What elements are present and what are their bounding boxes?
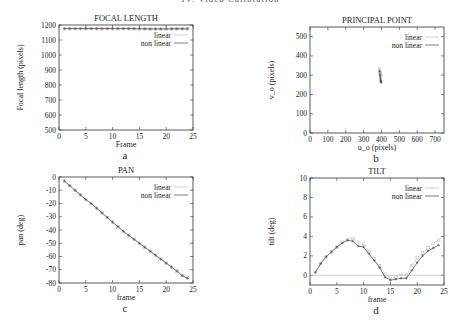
chart-principal: PRINCIPAL POINT0100200300400500600700010… — [267, 15, 444, 164]
y-axis-label: v_o (pixels) — [267, 60, 276, 99]
y-tick-label: 600 — [45, 111, 57, 120]
y-tick-label: 200 — [296, 90, 308, 99]
subfigure-caption: a — [123, 149, 128, 161]
legend: linearnon linear — [141, 31, 188, 48]
plot-frame — [310, 178, 444, 285]
y-tick-label: 2 — [303, 251, 307, 260]
subfigure-caption: c — [123, 302, 128, 314]
y-tick-label: 300 — [296, 71, 308, 80]
legend: linearnon linear — [392, 33, 439, 50]
y-tick-label: 800 — [45, 81, 57, 90]
legend-label: non linear — [141, 39, 172, 48]
y-tick-label: -60 — [46, 252, 56, 261]
x-axis-label: Frame — [116, 140, 137, 149]
chart-title: PRINCIPAL POINT — [342, 15, 413, 25]
y-tick-label: 0 — [303, 271, 307, 280]
legend-label: non linear — [141, 191, 172, 200]
x-tick-label: 25 — [189, 285, 197, 294]
legend: linearnon linear — [141, 183, 188, 200]
y-tick-label: 700 — [45, 96, 57, 105]
plot-frame — [310, 27, 444, 133]
chart-tilt: TILT05101520250246810framedtilt (deg)lin… — [267, 166, 448, 316]
chart-focal: FOCAL LENGTH0510152025500600700800900100… — [16, 13, 197, 161]
y-tick-label: 500 — [296, 32, 308, 41]
y-tick-label: 4 — [303, 232, 307, 241]
x-tick-label: 200 — [340, 135, 352, 144]
x-tick-label: 600 — [412, 135, 424, 144]
y-tick-label: -40 — [46, 226, 56, 235]
y-tick-label: 500 — [45, 126, 57, 135]
y-tick-label: -50 — [46, 239, 56, 248]
legend-label: non linear — [392, 41, 423, 50]
x-tick-label: 0 — [308, 135, 312, 144]
x-tick-label: 0 — [57, 285, 61, 294]
y-axis-label: tilt (deg) — [267, 217, 276, 245]
x-axis-label: frame — [117, 293, 136, 302]
x-tick-label: 20 — [162, 132, 170, 141]
y-tick-label: 1100 — [41, 36, 56, 45]
legend: linearnon linear — [392, 184, 439, 201]
x-tick-label: 10 — [109, 285, 117, 294]
x-axis-label: u_o (pixels) — [358, 143, 397, 152]
y-tick-label: -70 — [46, 265, 56, 274]
y-tick-label: 10 — [300, 174, 308, 183]
x-tick-label: 5 — [84, 285, 88, 294]
y-tick-label: 400 — [296, 51, 308, 60]
plot-frame — [59, 25, 193, 130]
x-tick-label: 20 — [162, 285, 170, 294]
y-tick-label: -10 — [46, 186, 56, 195]
chart-title: FOCAL LENGTH — [94, 13, 158, 23]
figure-plots: FOCAL LENGTH0510152025500600700800900100… — [0, 0, 461, 326]
legend-label: non linear — [392, 192, 423, 201]
subfigure-caption: b — [373, 152, 379, 164]
x-tick-label: 10 — [360, 287, 368, 296]
y-tick-label: -30 — [46, 212, 56, 221]
x-tick-label: 25 — [189, 132, 197, 141]
chart-title: TILT — [368, 166, 386, 176]
x-tick-label: 25 — [440, 287, 448, 296]
x-tick-label: 5 — [335, 287, 339, 296]
y-tick-label: 0 — [303, 129, 307, 138]
x-tick-label: 100 — [322, 135, 334, 144]
x-tick-label: 0 — [57, 132, 61, 141]
y-tick-label: 1000 — [41, 51, 56, 60]
x-tick-label: 5 — [84, 132, 88, 141]
y-tick-label: 6 — [303, 212, 307, 221]
x-tick-label: 15 — [387, 287, 395, 296]
y-tick-label: 100 — [296, 109, 308, 118]
chart-pan: PAN05101520250-10-20-30-40-50-60-70-80fr… — [16, 165, 197, 314]
y-tick-label: 0 — [52, 173, 56, 182]
chart-title: PAN — [118, 165, 134, 175]
x-tick-label: 15 — [136, 285, 144, 294]
x-tick-label: 15 — [136, 132, 144, 141]
y-tick-label: -80 — [46, 279, 56, 288]
subfigure-caption: d — [373, 304, 379, 316]
y-tick-label: -20 — [46, 199, 56, 208]
y-axis-label: pan (deg) — [16, 214, 25, 245]
x-tick-label: 0 — [308, 287, 312, 296]
y-tick-label: 8 — [303, 193, 307, 202]
y-tick-label: 1200 — [41, 21, 56, 30]
x-tick-label: 700 — [429, 135, 441, 144]
x-tick-label: 20 — [413, 287, 421, 296]
x-axis-label: frame — [368, 295, 387, 304]
y-axis-label: Focal length (pixels) — [16, 44, 25, 111]
y-tick-label: 900 — [45, 66, 57, 75]
